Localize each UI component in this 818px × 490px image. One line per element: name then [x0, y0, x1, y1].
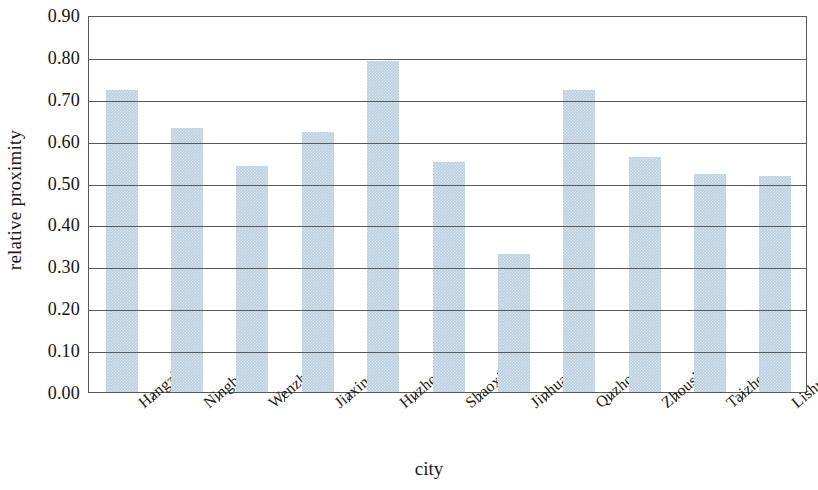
gridline	[89, 59, 806, 60]
x-tick-label: Taizhou	[723, 398, 735, 412]
x-tick-label: Zhoushan	[658, 398, 670, 412]
y-axis-title-text: relative proximity	[4, 130, 26, 270]
bar	[433, 162, 465, 392]
bar	[236, 166, 268, 392]
y-tick-label: 0.70	[48, 89, 80, 110]
x-axis-title: city	[0, 458, 818, 480]
x-tick-label: Jinhua	[527, 398, 539, 412]
y-tick-label: 0.20	[48, 299, 80, 320]
x-tick-label: Jiaxing	[331, 398, 343, 412]
gridline	[89, 352, 806, 353]
x-tick-label: Quzhou	[592, 398, 604, 412]
y-tick-label: 0.40	[48, 215, 80, 236]
plot-area	[88, 16, 807, 393]
y-axis-tick-labels: 0.900.800.700.600.500.400.300.200.100.00	[28, 0, 84, 400]
bar-chart: relative proximity 0.900.800.700.600.500…	[0, 0, 818, 490]
bars-layer	[89, 17, 806, 392]
y-tick-label: 0.50	[48, 173, 80, 194]
y-tick-label: 0.90	[48, 6, 80, 27]
gridline	[89, 185, 806, 186]
x-tick-label: Ningbo	[200, 398, 212, 412]
x-tick-label: Lishui	[788, 398, 800, 412]
x-axis-title-text: city	[375, 458, 444, 479]
bar	[629, 157, 661, 392]
x-tick-label: Shaoxing	[462, 398, 474, 412]
gridline	[89, 310, 806, 311]
y-tick-label: 0.80	[48, 47, 80, 68]
x-axis-tick-labels: HangzhouNingboWenzhouJiaxingHuzhouShaoxi…	[88, 398, 807, 460]
y-tick-label: 0.30	[48, 257, 80, 278]
x-tick-label: Wenzhou	[265, 398, 277, 412]
x-tick-label: Hangzhou	[135, 398, 147, 412]
x-tick-label: Huzhou	[396, 398, 408, 412]
gridline	[89, 143, 806, 144]
bar	[498, 254, 530, 392]
bar	[106, 90, 138, 392]
gridline	[89, 226, 806, 227]
gridline	[89, 101, 806, 102]
y-tick-label: 0.00	[48, 383, 80, 404]
y-tick-label: 0.60	[48, 131, 80, 152]
bar	[694, 174, 726, 392]
bar	[759, 176, 791, 392]
y-tick-label: 0.10	[48, 341, 80, 362]
bar	[563, 90, 595, 392]
y-axis-title: relative proximity	[0, 0, 30, 400]
gridline	[89, 268, 806, 269]
